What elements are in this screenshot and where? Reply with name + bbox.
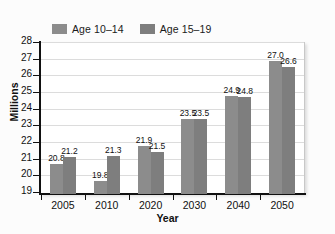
- bar: [50, 164, 63, 194]
- x-axis-tick-label: 2040: [216, 199, 260, 211]
- x-axis-tick-label: 2050: [260, 199, 304, 211]
- x-axis-title: Year: [0, 212, 335, 224]
- y-axis-tick: [33, 109, 39, 110]
- y-axis-tick-label: 21: [16, 152, 32, 163]
- y-axis-tick-label: 27: [16, 52, 32, 63]
- bar: [151, 152, 164, 194]
- y-axis-tick: [33, 42, 39, 43]
- legend-label-1: Age 15–19: [160, 23, 212, 35]
- x-axis-tick-label: 2010: [85, 199, 129, 211]
- bar-value-label: 23.5: [193, 108, 210, 118]
- y-axis-tick: [33, 175, 39, 176]
- bar: [269, 61, 282, 194]
- y-axis-tick: [33, 75, 39, 76]
- y-axis-tick: [33, 59, 39, 60]
- bar: [225, 96, 238, 194]
- y-axis-tick-label: 19: [16, 185, 32, 196]
- bar: [194, 119, 207, 194]
- bar-chart-figure: Age 10–14Age 15–19 19202122232425262728 …: [0, 0, 335, 234]
- y-axis-tick-label: 28: [16, 35, 32, 46]
- y-axis-tick: [33, 142, 39, 143]
- bar-value-label: 21.3: [105, 145, 122, 155]
- bar-value-label: 26.6: [280, 56, 297, 66]
- y-axis-tick-label: 20: [16, 168, 32, 179]
- y-axis-title: Millions: [8, 72, 20, 132]
- y-axis-tick-label: 22: [16, 135, 32, 146]
- y-axis-tick: [33, 159, 39, 160]
- bars-layer: 20.821.219.821.321.921.523.523.524.924.8…: [41, 42, 305, 194]
- x-axis-tick-label: 2030: [172, 199, 216, 211]
- legend-entry-0: Age 10–14: [52, 23, 124, 35]
- bar-value-label: 21.2: [61, 146, 78, 156]
- bar: [138, 146, 151, 194]
- y-axis-tick: [33, 125, 39, 126]
- bar: [107, 156, 120, 194]
- bar: [181, 119, 194, 194]
- bar: [63, 157, 76, 194]
- bar: [282, 67, 295, 194]
- bar-value-label: 21.5: [149, 141, 166, 151]
- bar: [238, 97, 251, 194]
- bar: [94, 181, 107, 194]
- x-axis-tick-label: 2005: [41, 199, 85, 211]
- legend-swatch-1: [140, 24, 155, 34]
- legend-label-0: Age 10–14: [72, 23, 124, 35]
- x-axis-tick-label: 2020: [129, 199, 173, 211]
- legend-swatch-0: [52, 24, 67, 34]
- bar-value-label: 24.8: [236, 86, 253, 96]
- y-axis-tick: [33, 192, 39, 193]
- y-axis-tick: [33, 92, 39, 93]
- legend-entry-1: Age 15–19: [140, 23, 212, 35]
- chart-legend: Age 10–14Age 15–19: [52, 22, 211, 36]
